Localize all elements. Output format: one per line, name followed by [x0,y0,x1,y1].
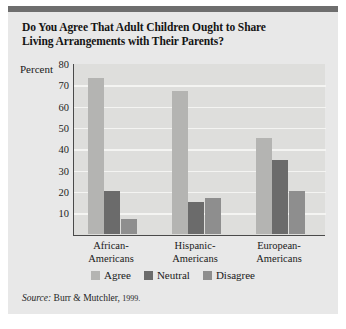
legend-label-neutral: Neutral [157,269,190,281]
source-note: Source: Burr & Mutchler, 1999. [22,293,140,303]
gridline [74,149,326,151]
gridline [74,128,326,130]
bar-neutral-european-americans [272,160,288,234]
bar-agree-african-americans [88,78,104,234]
bar-agree-european-americans [256,138,272,234]
plot-wrap: 1020304050607080 African-AmericansHispan… [73,64,325,236]
y-tick-label: 20 [59,186,70,197]
legend-swatch-agree [91,271,100,280]
y-axis-label: Percent [20,63,53,75]
x-group-label-hispanic-americans: Hispanic-Americans [172,240,217,265]
y-tick-label: 50 [59,122,70,133]
y-tick-label: 60 [59,101,70,112]
x-group-label-line: Hispanic- [172,240,217,253]
y-tick-label: 70 [59,80,70,91]
top-rule-divider [8,6,338,12]
legend-label-disagree: Disagree [216,269,255,281]
legend-label-agree: Agree [104,269,131,281]
x-group-label-line: African- [88,240,133,253]
legend-item-disagree: Disagree [203,269,255,281]
x-group-label-african-americans: African-Americans [88,240,133,265]
bar-disagree-european-americans [289,191,305,234]
gridline [74,85,326,87]
x-group-label-european-americans: European-Americans [256,240,301,265]
bar-agree-hispanic-americans [172,91,188,234]
y-tick-label: 30 [59,165,70,176]
source-prefix: Source: [22,293,51,303]
bar-disagree-hispanic-americans [205,198,221,233]
bar-neutral-hispanic-americans [188,202,204,234]
figure-card: Do You Agree That Adult Children Ought t… [8,6,338,314]
x-group-label-line: Americans [256,253,301,266]
y-tick-label: 80 [59,59,70,70]
gridline [74,107,326,109]
bar-neutral-african-americans [104,191,120,234]
legend-swatch-disagree [203,271,212,280]
chart-title-line-2: Living Arrangements with Their Parents? [22,34,322,48]
x-group-label-line: Americans [172,253,217,266]
legend-item-neutral: Neutral [144,269,190,281]
x-group-label-line: Americans [88,253,133,266]
plot-area [73,64,325,236]
legend-swatch-neutral [144,271,153,280]
chart-legend: AgreeNeutralDisagree [8,269,338,281]
chart-title-line-1: Do You Agree That Adult Children Ought t… [22,20,322,34]
source-citation: Burr & Mutchler, [54,293,120,303]
gridline [74,171,326,173]
x-group-label-line: European- [256,240,301,253]
legend-item-agree: Agree [91,269,131,281]
y-tick-label: 40 [59,144,70,155]
source-year: 1999. [122,294,140,303]
bar-disagree-african-americans [121,219,137,234]
chart-title: Do You Agree That Adult Children Ought t… [22,20,322,48]
y-tick-label: 10 [59,208,70,219]
